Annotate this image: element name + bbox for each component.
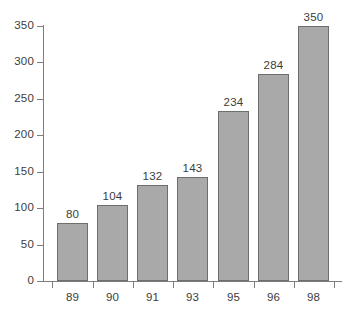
x-axis-tick — [173, 282, 174, 288]
x-axis-tick — [254, 282, 255, 288]
bar — [137, 185, 168, 281]
y-axis-tick-label: 350 — [0, 20, 34, 31]
x-axis-tick-label: 98 — [294, 291, 334, 304]
y-axis-tick-label: 300 — [0, 56, 34, 67]
bar — [218, 111, 249, 281]
x-axis-tick-label: 91 — [133, 291, 173, 304]
y-axis-tick-label: 0 — [0, 275, 34, 286]
x-axis-tick — [294, 282, 295, 288]
x-axis-tick — [133, 282, 134, 288]
bar — [97, 205, 128, 281]
y-axis-tick — [37, 99, 43, 100]
bar-value-label: 350 — [291, 11, 337, 23]
y-axis-tick-label: 200 — [0, 129, 34, 140]
x-axis-tick — [52, 282, 53, 288]
x-axis-tick-label: 95 — [214, 291, 254, 304]
bar-value-label: 104 — [90, 190, 136, 202]
y-axis-tick — [37, 172, 43, 173]
y-axis-tick — [37, 26, 43, 27]
bar-value-label: 234 — [211, 96, 257, 108]
y-axis-tick — [37, 245, 43, 246]
bar-chart-figure: 050100150200250300350 801041321432342843… — [0, 0, 351, 313]
y-axis-tick — [37, 281, 43, 282]
x-axis-line — [43, 281, 342, 282]
x-axis-tick — [93, 282, 94, 288]
bar-value-label: 80 — [50, 208, 96, 220]
y-axis-tick — [37, 62, 43, 63]
y-axis-tick-label: 50 — [0, 239, 34, 250]
y-axis-tick-label: 150 — [0, 166, 34, 177]
bar-value-label: 143 — [170, 162, 216, 174]
bar — [258, 74, 289, 281]
x-axis-tick-label: 96 — [254, 291, 294, 304]
y-axis-tick — [37, 135, 43, 136]
bar — [177, 177, 208, 281]
x-axis-tick-label: 93 — [173, 291, 213, 304]
x-axis-tick-label: 90 — [93, 291, 133, 304]
bar — [298, 26, 329, 281]
bar — [57, 223, 88, 281]
bar-value-label: 284 — [251, 59, 297, 71]
x-axis-tick — [213, 282, 214, 288]
x-axis-tick — [334, 282, 335, 288]
x-axis-tick-label: 89 — [53, 291, 93, 304]
y-axis-tick-label: 250 — [0, 93, 34, 104]
y-axis-line — [43, 25, 44, 282]
y-axis-tick — [37, 208, 43, 209]
y-axis-tick-label: 100 — [0, 202, 34, 213]
